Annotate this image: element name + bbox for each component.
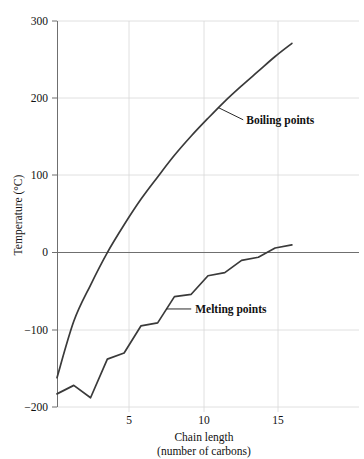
- y-tick-label-neg100: −100: [24, 324, 48, 336]
- x-tick-label-5: 5: [126, 414, 132, 426]
- x-tick-label-15: 15: [272, 414, 284, 426]
- y-tick-label-0: 0: [42, 246, 48, 258]
- y-tick-label-300: 300: [31, 15, 49, 27]
- line-chart: 300 200 100 0 −100 −200 5 10 15 Temperat…: [0, 0, 364, 459]
- annotation-label-melting: Melting points: [195, 303, 267, 316]
- x-tick-label-10: 10: [198, 414, 210, 426]
- chart-background: [0, 0, 364, 459]
- y-axis-title: Temperature (°C): [12, 174, 25, 255]
- x-axis-title-line1: Chain length: [174, 431, 233, 444]
- y-tick-label-neg200: −200: [24, 401, 48, 413]
- y-tick-label-100: 100: [31, 169, 49, 181]
- y-tick-label-200: 200: [31, 92, 49, 104]
- x-axis-title-line2: (number of carbons): [157, 445, 251, 458]
- chart-figure: 300 200 100 0 −100 −200 5 10 15 Temperat…: [0, 0, 364, 459]
- annotation-label-boiling: Boiling points: [246, 114, 315, 127]
